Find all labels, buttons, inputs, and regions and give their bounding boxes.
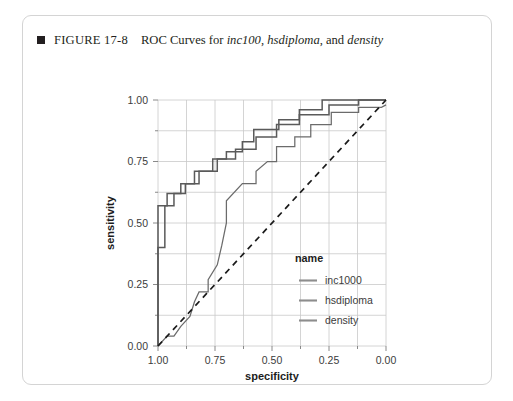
caption-variable-hsdiploma: hsdiploma [267, 33, 319, 47]
roc-curve-chart: 1.000.750.500.250.00 0.000.250.500.751.0… [23, 46, 493, 384]
x-axis-tick-labels: 1.000.750.500.250.00 [148, 354, 397, 366]
legend-entries: inc1000hsdiplomadensity [299, 274, 373, 326]
roc-plot-container: 1.000.750.500.250.00 0.000.250.500.751.0… [23, 46, 493, 384]
y-tick-label: 0.50 [128, 217, 149, 229]
y-tick-label: 0.00 [128, 340, 149, 352]
caption-separator-2: , and [320, 33, 348, 47]
x-tick-label: 0.00 [376, 354, 397, 366]
y-axis-title: sensitivity [104, 195, 116, 250]
legend-title: name [295, 252, 323, 264]
caption-prefix: ROC Curves for [141, 33, 227, 47]
legend-label-density: density [325, 314, 359, 326]
x-tick-label: 1.00 [148, 354, 169, 366]
caption-variable-density: density [347, 33, 383, 47]
x-tick-label: 0.75 [205, 354, 226, 366]
y-tick-label: 0.75 [128, 155, 149, 167]
y-tick-label: 0.25 [128, 278, 149, 290]
figure-panel: FIGURE 17-8 ROC Curves for inc100, hsdip… [22, 15, 492, 385]
x-axis-title: specificity [245, 370, 300, 382]
legend-label-hsdiploma: hsdiploma [325, 294, 373, 306]
filled-square-icon [37, 36, 45, 44]
page-background: FIGURE 17-8 ROC Curves for inc100, hsdip… [0, 0, 513, 401]
x-tick-label: 0.50 [262, 354, 283, 366]
y-tick-label: 1.00 [128, 94, 149, 106]
y-axis-tick-labels: 0.000.250.500.751.00 [128, 94, 149, 352]
x-tick-label: 0.25 [319, 354, 340, 366]
caption-variable-inc100: inc100 [227, 33, 261, 47]
legend-label-inc1000: inc1000 [325, 274, 362, 286]
